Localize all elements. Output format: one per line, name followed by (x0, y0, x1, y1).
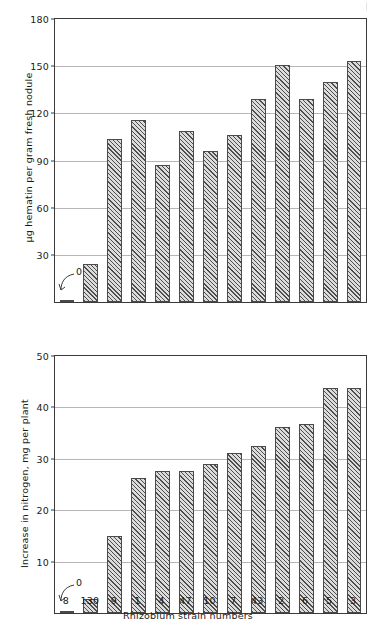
bar-6 (299, 424, 314, 613)
bar-43 (251, 99, 266, 302)
bar-4 (155, 471, 170, 613)
x-axis-tick-2: 2 (278, 595, 284, 606)
x-axis-tick-47: 47 (179, 595, 192, 606)
bar-47 (179, 471, 194, 613)
chart-panel-nitrogen: 1020304050 0 (0, 320, 376, 637)
bar-3 (347, 388, 362, 613)
bar-1 (131, 478, 146, 613)
x-axis-tick-4: 4 (159, 595, 165, 606)
plot-area-bottom: 1020304050 0 (54, 355, 367, 614)
x-axis-tick-5: 5 (326, 595, 332, 606)
x-axis-tick-130: 130 (81, 595, 100, 606)
bar-6 (299, 99, 314, 302)
bar-3 (347, 61, 362, 302)
bar-10 (203, 151, 218, 302)
x-axis-tick-1: 1 (135, 595, 141, 606)
bar-7 (227, 453, 242, 613)
x-axis-label: Rhizobium strain numbers (0, 610, 376, 621)
bar-5 (323, 82, 338, 302)
x-axis-tick-10: 10 (203, 595, 216, 606)
plot-area-top: 306090120150180 0 (54, 18, 367, 303)
bar-5 (323, 388, 338, 613)
bar-series-hematin (55, 19, 366, 302)
bar-10 (203, 464, 218, 613)
y-axis-label-top: µg hematin per gram fresh nodule (23, 68, 34, 248)
bar-130 (83, 264, 98, 302)
bar-2 (275, 427, 290, 613)
bar-9 (107, 139, 122, 303)
bar-4 (155, 165, 170, 302)
bar-47 (179, 131, 194, 302)
bar-7 (227, 135, 242, 302)
x-axis-tick-43: 43 (251, 595, 264, 606)
x-axis-tick-9: 9 (111, 595, 117, 606)
bar-2 (275, 65, 290, 302)
y-axis-label-bottom: Increase in nitrogen, mg per plant (19, 403, 30, 568)
bar-43 (251, 446, 266, 613)
bar-8 (60, 300, 75, 302)
figure-rhizobium-strains: µg hematin per gram fresh nodule 3060901… (0, 0, 376, 637)
x-axis-tick-labels: 813091447107432653 (54, 595, 367, 611)
chart-panel-hematin: µg hematin per gram fresh nodule 3060901… (0, 0, 376, 320)
bar-series-nitrogen (55, 356, 366, 613)
bar-1 (131, 120, 146, 302)
x-axis-tick-8: 8 (63, 595, 69, 606)
x-axis-tick-7: 7 (230, 595, 236, 606)
x-axis-tick-3: 3 (350, 595, 356, 606)
x-axis-tick-6: 6 (302, 595, 308, 606)
